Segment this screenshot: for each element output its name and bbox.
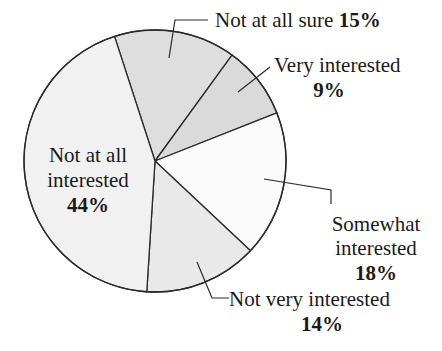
label-not-at-all-sure: Not at all sure 15% <box>215 8 381 32</box>
label-not-very-interested: Not very interested <box>229 287 390 311</box>
label-somewhat-interested-line1: Somewhat <box>332 212 421 236</box>
label-not-at-all-interested-line1: Not at all <box>49 143 127 167</box>
label-very-interested: Very interested <box>274 53 401 77</box>
label-somewhat-interested-pct: 18% <box>355 261 397 285</box>
label-somewhat-interested-line2: interested <box>335 236 417 260</box>
label-not-at-all-interested-pct: 44% <box>67 193 109 217</box>
pie-chart: Not at all sure 15% Very interested 9% S… <box>0 0 442 351</box>
label-not-very-interested-pct: 14% <box>301 312 343 336</box>
label-not-at-all-interested-line2: interested <box>47 168 129 192</box>
label-very-interested-pct: 9% <box>313 78 345 102</box>
